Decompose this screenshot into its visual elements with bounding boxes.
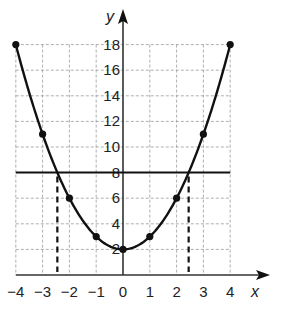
x-tick-label: 4 [226, 283, 234, 300]
data-point-marker [146, 233, 153, 240]
data-point-marker [173, 195, 180, 202]
data-point-marker [66, 195, 73, 202]
data-point-marker [119, 246, 126, 253]
data-point-marker [227, 41, 234, 48]
y-tick-label: 10 [103, 138, 120, 155]
data-point-marker [39, 131, 46, 138]
y-tick-label: 6 [112, 189, 120, 206]
x-tick-label: 0 [119, 283, 127, 300]
data-point-marker [12, 41, 19, 48]
y-axis-label: y [105, 8, 115, 25]
y-tick-label: 16 [103, 61, 120, 78]
data-point-marker [93, 233, 100, 240]
x-tick-label: −1 [88, 283, 105, 300]
x-tick-label: 1 [146, 283, 154, 300]
x-tick-label: 3 [199, 283, 207, 300]
parabola-chart: x y −4−3−2−101234 24681012141618 [0, 0, 281, 311]
x-tick-label: −3 [34, 283, 51, 300]
axes: x y [16, 8, 270, 300]
y-tick-label: 14 [103, 87, 120, 104]
y-tick-label: 4 [112, 215, 120, 232]
x-tick-label: −4 [7, 283, 24, 300]
x-tick-label: −2 [61, 283, 78, 300]
x-axis-label: x [250, 283, 260, 300]
data-point-marker [200, 131, 207, 138]
x-tick-label: 2 [172, 283, 180, 300]
x-tick-labels: −4−3−2−101234 [7, 283, 234, 300]
y-tick-label: 18 [103, 36, 120, 53]
y-tick-label: 12 [103, 112, 120, 129]
